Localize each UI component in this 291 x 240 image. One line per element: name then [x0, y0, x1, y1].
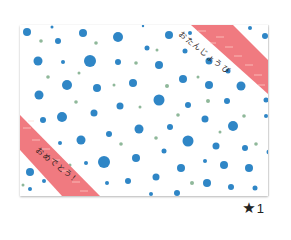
star-icon: ★: [242, 201, 255, 216]
birthday-card-thumbnail[interactable]: おたんじょうび おめでとう！: [20, 25, 268, 196]
favorite-count-value: 1: [257, 202, 264, 215]
ribbon-top-right: [191, 25, 268, 94]
favorite-count[interactable]: ★ 1: [242, 200, 264, 216]
ribbon-bottom-left: [20, 115, 100, 196]
